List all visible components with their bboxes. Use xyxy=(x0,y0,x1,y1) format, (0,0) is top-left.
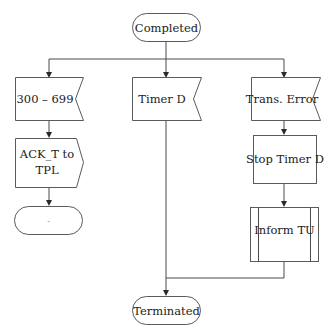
node-label: Timer D xyxy=(138,92,185,106)
node-dash-terminal: - xyxy=(15,207,83,235)
node-timer-d: Timer D xyxy=(133,78,202,121)
node-label: 300 – 699 xyxy=(17,92,74,106)
node-label: Trans. Error xyxy=(246,92,319,106)
arrowhead-icon xyxy=(281,201,287,207)
node-label-line1: ACK_T to xyxy=(19,147,74,161)
arrowhead-icon xyxy=(46,132,52,138)
flowchart-canvas: Completed 300 – 699 Timer D Trans. Error… xyxy=(0,0,332,336)
node-label: Stop Timer D xyxy=(246,152,324,166)
node-trans-error: Trans. Error xyxy=(246,78,321,121)
connector-inform-to-terminated xyxy=(166,261,284,278)
node-300-699: 300 – 699 xyxy=(16,78,84,121)
node-label: - xyxy=(47,217,50,226)
node-label-line2: TPL xyxy=(35,163,58,177)
arrowhead-icon xyxy=(46,200,52,206)
node-label: Completed xyxy=(135,21,199,35)
node-ack-to-tpl: ACK_T to TPL xyxy=(16,139,84,188)
node-inform-tu: Inform TU xyxy=(251,208,319,262)
node-completed: Completed xyxy=(133,14,201,42)
node-stop-timer-d: Stop Timer D xyxy=(246,136,324,184)
node-label: Inform TU xyxy=(254,223,315,237)
arrowhead-icon xyxy=(163,290,169,296)
node-terminated: Terminated xyxy=(133,297,201,325)
arrowhead-icon xyxy=(281,129,287,135)
node-label: Terminated xyxy=(133,304,200,318)
